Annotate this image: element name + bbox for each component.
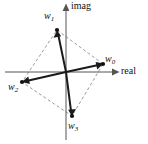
label-imag-axis: imag [71,1,91,11]
complex-plane-figure: w0 w1 w2 w3 real imag [0,0,148,144]
vector-w3-line [66,72,71,112]
vector-w1-endpoint-dot [55,28,59,32]
label-w3-base: w [68,120,75,131]
vector-w1-line [58,35,66,73]
vector-w0-line [66,65,100,72]
label-w1-subscript: 1 [51,15,55,23]
label-w1-base: w [44,10,51,21]
label-w2-subscript: 2 [15,86,19,94]
label-w0-subscript: 0 [112,58,116,66]
label-real-axis: real [121,66,136,76]
imag-axis-arrowhead [63,4,70,12]
label-w3: w3 [68,121,78,133]
vector-w2-line [26,72,66,81]
label-w2-base: w [8,81,15,92]
real-axis-arrowhead [112,69,120,76]
label-w2: w2 [8,82,18,94]
vector-w3-endpoint-dot [70,114,74,118]
label-w3-subscript: 3 [75,125,79,133]
vector-w2-endpoint-dot [20,80,24,84]
label-w0-base: w [105,53,112,64]
label-w0: w0 [105,54,115,66]
label-w1: w1 [44,11,54,23]
